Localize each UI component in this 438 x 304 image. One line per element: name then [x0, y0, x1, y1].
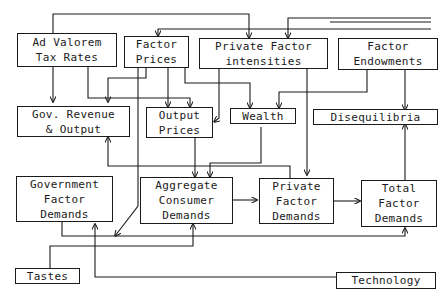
node-factor-prices: Factor Prices [124, 36, 189, 68]
node-wealth: Wealth [230, 108, 296, 124]
node-private-factor-intensities: Private Factor intensities [199, 38, 328, 69]
node-output-prices: Output Prices [146, 107, 213, 138]
node-ad-valorem-tax-rates: Ad Valorem Tax Rates [17, 33, 117, 67]
node-aggregate-consumer-demands: Aggregate Consumer Demands [140, 177, 233, 224]
node-tastes: Tastes [15, 268, 80, 284]
node-technology: Technology [336, 272, 436, 289]
node-total-factor-demands: Total Factor Demands [361, 180, 437, 227]
node-government-factor-demands: Government Factor Demands [16, 176, 113, 222]
node-private-factor-demands: Private Factor Demands [259, 178, 334, 224]
node-factor-endowments: Factor Endowments [338, 38, 438, 70]
node-disequilibria: Disequilibria [313, 109, 438, 125]
node-gov-revenue-output: Gov. Revenue & Output [17, 106, 130, 137]
